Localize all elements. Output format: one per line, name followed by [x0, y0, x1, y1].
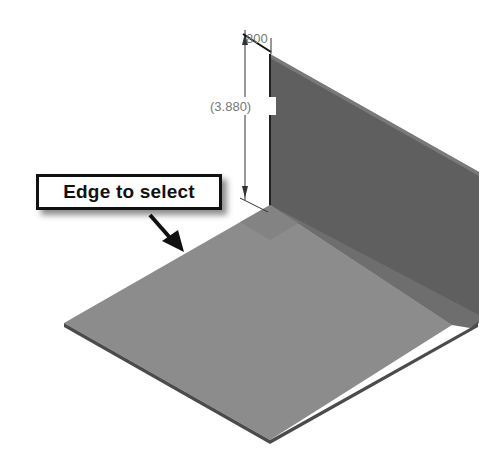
height-dimension-label: (3.880) — [210, 99, 251, 114]
callout-label: Edge to select — [63, 181, 195, 203]
thickness-dimension: 800 — [246, 31, 268, 46]
thickness-dimension-label: 800 — [246, 31, 268, 46]
callout-arrow-icon — [150, 215, 184, 252]
bracket-diagram: (3.880) 800 — [0, 0, 499, 470]
edge-callout: Edge to select — [36, 174, 222, 210]
